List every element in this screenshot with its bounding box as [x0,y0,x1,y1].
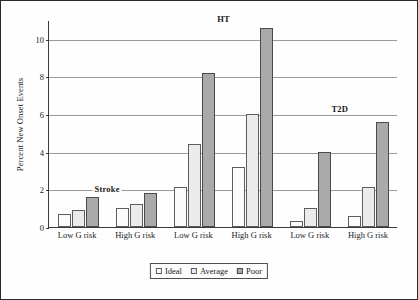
y-axis-title: Percent New Onset Events [13,21,27,228]
x-axis-label: Low G risk [281,230,339,240]
bar-average [130,204,143,227]
legend-item-poor[interactable]: Poor [237,266,262,276]
bar-ideal [116,208,129,227]
chart-figure: Percent New Onset Events 0246810 StrokeH… [0,0,418,300]
x-axis-label: High G risk [106,230,164,240]
bar-average [246,114,259,227]
legend-swatch-icon [237,268,243,274]
y-tick-label: 6 [40,111,44,120]
bar-ideal [232,167,245,227]
legend-label: Average [200,266,228,276]
bar-poor [86,197,99,227]
annotation-t2d: T2D [329,104,350,114]
bar-poor [260,28,273,227]
legend-swatch-icon [156,268,162,274]
legend-item-average[interactable]: Average [191,266,228,276]
bar-poor [376,122,389,227]
y-tick-mark [46,228,49,229]
plot-area: 0246810 StrokeHTT2D [48,21,397,228]
bar-poor [144,193,157,227]
bar-average [188,144,201,227]
bar-poor [318,152,331,227]
bar-ideal [348,216,361,227]
legend-item-ideal[interactable]: Ideal [156,266,182,276]
annotation-ht: HT [215,14,232,24]
bar-ideal [290,221,303,227]
bar-poor [202,73,215,227]
legend-swatch-icon [191,268,197,274]
y-tick-label: 2 [40,186,44,195]
chart-legend: IdealAveragePoor [150,263,268,279]
bars-layer [49,21,397,227]
annotation-stroke: Stroke [93,184,122,194]
bar-group [339,21,397,227]
legend-label: Ideal [165,266,182,276]
bar-average [304,208,317,227]
x-axis-label: High G risk [339,230,397,240]
bar-group [49,21,107,227]
bar-group [223,21,281,227]
y-tick-label: 10 [36,36,45,45]
bar-group [281,21,339,227]
bar-average [72,210,85,227]
x-axis-label: High G risk [223,230,281,240]
x-axis-label: Low G risk [164,230,222,240]
x-axis-label: Low G risk [48,230,106,240]
legend-label: Poor [246,266,262,276]
bar-group [165,21,223,227]
y-tick-label: 8 [40,73,44,82]
y-tick-label: 4 [40,148,44,157]
bar-average [362,187,375,227]
y-tick-label: 0 [40,224,44,233]
x-axis-labels: Low G riskHigh G riskLow G riskHigh G ri… [48,230,397,240]
bar-ideal [174,187,187,227]
bar-group [107,21,165,227]
bar-ideal [58,214,71,227]
